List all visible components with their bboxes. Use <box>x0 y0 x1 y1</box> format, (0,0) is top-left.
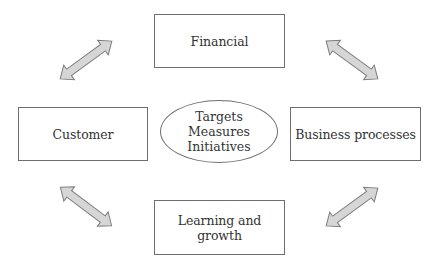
learning-growth-box: Learning and growth <box>154 200 285 255</box>
financial-box: Financial <box>154 14 285 68</box>
business-processes-box: Business processes <box>290 107 421 161</box>
financial-label: Financial <box>191 34 249 49</box>
arrow-customer-learning <box>55 180 117 233</box>
business-processes-label: Business processes <box>295 127 416 142</box>
customer-label: Customer <box>52 127 113 142</box>
arrow-customer-financial <box>55 34 117 86</box>
center-line-targets: Targets <box>195 109 243 124</box>
arrow-financial-business <box>321 34 383 86</box>
customer-box: Customer <box>18 107 148 161</box>
learning-growth-label: Learning and growth <box>155 213 284 243</box>
center-line-measures: Measures <box>188 124 250 139</box>
center-line-initiatives: Initiatives <box>187 139 250 154</box>
arrow-learning-business <box>321 181 383 233</box>
center-ellipse: Targets Measures Initiatives <box>160 100 278 163</box>
